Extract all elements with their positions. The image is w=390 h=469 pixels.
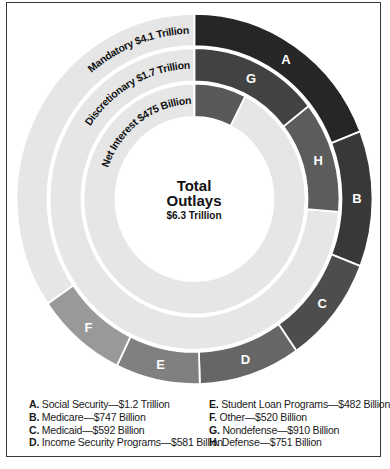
- segment-label-a: A: [281, 52, 291, 67]
- legend-key: C.: [29, 424, 39, 436]
- segment-label-g: G: [246, 71, 256, 86]
- legend-key: H.: [209, 436, 219, 448]
- segment-label-h: H: [313, 153, 322, 168]
- legend-text: Social Security—$1.2 Trillion: [42, 398, 170, 410]
- legend-item-d: D. Income Security Programs—$581 Billion: [29, 436, 223, 449]
- legend-key: B.: [29, 411, 39, 423]
- legend-item-g: G. Nondefense—$910 Billion: [209, 424, 390, 437]
- legend-right-column: E. Student Loan Programs—$482 Billion F.…: [209, 398, 390, 449]
- legend-key: G.: [209, 424, 220, 436]
- center-title-line2: Outlays: [166, 192, 221, 209]
- legend-key: E.: [209, 398, 219, 410]
- legend-item-h: H. Defense—$751 Billion: [209, 436, 390, 449]
- legend-item-a: A. Social Security—$1.2 Trillion: [29, 398, 223, 411]
- legend-item-e: E. Student Loan Programs—$482 Billion: [209, 398, 390, 411]
- legend-text: Income Security Programs—$581 Billion: [42, 436, 223, 448]
- segment-label-b: B: [352, 191, 361, 206]
- legend-item-b: B. Medicare—$747 Billion: [29, 411, 223, 424]
- legend-key: F.: [209, 411, 217, 423]
- legend-text: Student Loan Programs—$482 Billion: [221, 398, 390, 410]
- segment-label-d: D: [241, 352, 250, 367]
- legend-text: Defense—$751 Billion: [222, 436, 322, 448]
- legend-text: Other—$520 Billion: [220, 411, 307, 423]
- legend-key: A.: [29, 398, 39, 410]
- legend-left-column: A. Social Security—$1.2 Trillion B. Medi…: [29, 398, 223, 449]
- legend-text: Nondefense—$910 Billion: [222, 424, 339, 436]
- legend-item-f: F. Other—$520 Billion: [209, 411, 390, 424]
- segment-label-e: E: [156, 357, 165, 372]
- segment-label-f: F: [85, 320, 93, 335]
- legend-key: D.: [29, 436, 39, 448]
- legend-text: Medicaid—$592 Billion: [42, 424, 145, 436]
- center-amount: $6.3 Trillion: [166, 210, 221, 221]
- legend-item-c: C. Medicaid—$592 Billion: [29, 424, 223, 437]
- segment-label-c: C: [318, 296, 328, 311]
- donut-chart: Mandatory $4.1 TrillionDiscretionary $1.…: [0, 0, 387, 400]
- legend-text: Medicare—$747 Billion: [42, 411, 146, 423]
